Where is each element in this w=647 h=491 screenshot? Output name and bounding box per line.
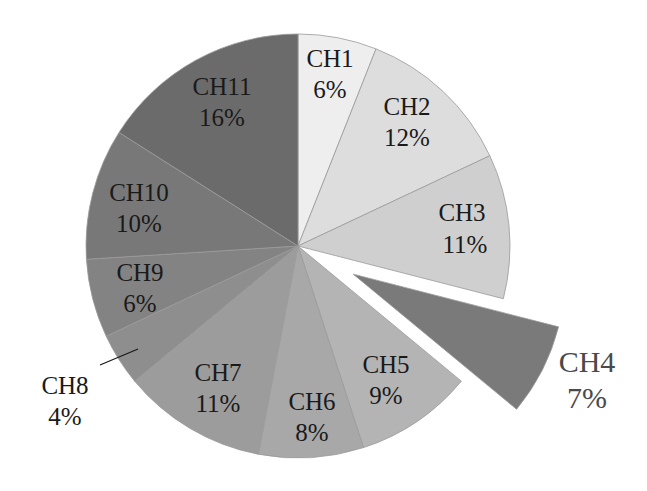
slice-name: CH6: [288, 388, 335, 415]
slice-percent: 10%: [116, 210, 162, 237]
slice-percent: 11%: [443, 231, 488, 258]
slice-name: CH1: [306, 45, 353, 72]
pie-chart: CH1 6% CH2 12% CH3 11% CH4 7% CH5 9% CH6…: [0, 0, 647, 491]
slice-name: CH8: [41, 372, 88, 399]
slice-name: CH11: [193, 73, 252, 100]
slice-name: CH5: [362, 351, 409, 378]
slice-percent: 8%: [295, 419, 328, 446]
slice-percent: 16%: [199, 104, 245, 131]
slice-percent: 4%: [48, 403, 81, 430]
slice-percent: 6%: [123, 290, 156, 317]
slice-percent: 9%: [369, 382, 402, 409]
slice-name: CH2: [383, 93, 430, 120]
slice-percent: 7%: [567, 381, 607, 414]
slice-name: CH7: [194, 359, 241, 386]
slice-name: CH4: [559, 345, 616, 378]
slice-percent: 6%: [313, 76, 346, 103]
slice-percent: 11%: [196, 390, 241, 417]
slice-label-ch4: CH4 7%: [559, 345, 616, 414]
slice-name: CH9: [116, 259, 163, 286]
slice-percent: 12%: [384, 124, 430, 151]
slice-name: CH3: [438, 199, 485, 226]
slice-name: CH10: [109, 179, 169, 206]
